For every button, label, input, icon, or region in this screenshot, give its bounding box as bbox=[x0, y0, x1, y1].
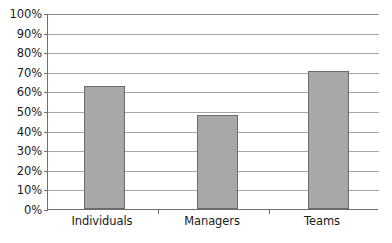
gridline-100 bbox=[48, 14, 379, 15]
y-tickmark bbox=[44, 171, 48, 172]
bar-teams bbox=[308, 71, 349, 209]
plot-area bbox=[47, 14, 378, 210]
y-tickmark bbox=[44, 210, 48, 211]
gridline-80 bbox=[48, 53, 379, 54]
y-axis-tick-label: 100% bbox=[0, 8, 42, 20]
y-axis-tick-label: 0% bbox=[0, 204, 42, 216]
y-tickmark bbox=[44, 132, 48, 133]
y-tickmark bbox=[44, 92, 48, 93]
y-axis-tick-label: 20% bbox=[0, 165, 42, 177]
y-tickmark bbox=[44, 34, 48, 35]
y-axis-tick-label: 30% bbox=[0, 145, 42, 157]
y-axis-tick-label: 80% bbox=[0, 47, 42, 59]
x-axis-label-managers: Managers bbox=[157, 213, 267, 229]
x-axis-label-individuals: Individuals bbox=[47, 213, 157, 229]
bar-managers bbox=[197, 115, 238, 209]
y-axis-tick-label: 60% bbox=[0, 86, 42, 98]
bar-individuals bbox=[84, 86, 125, 209]
y-axis-tick-label: 90% bbox=[0, 28, 42, 40]
y-tickmark bbox=[44, 14, 48, 15]
bar-chart: 100% 90% 80% 70% 60% 50% 40% 30% 20% 10%… bbox=[0, 0, 392, 243]
y-tickmark bbox=[44, 73, 48, 74]
y-axis-tick-label: 40% bbox=[0, 126, 42, 138]
y-tickmark bbox=[44, 190, 48, 191]
y-tickmark bbox=[44, 112, 48, 113]
y-axis: 100% 90% 80% 70% 60% 50% 40% 30% 20% 10%… bbox=[0, 0, 46, 243]
x-axis: Individuals Managers Teams bbox=[47, 213, 378, 237]
y-tickmark bbox=[44, 53, 48, 54]
y-tickmark bbox=[44, 151, 48, 152]
y-axis-tick-label: 50% bbox=[0, 106, 42, 118]
x-axis-label-teams: Teams bbox=[267, 213, 377, 229]
gridline-90 bbox=[48, 34, 379, 35]
y-axis-tick-label: 10% bbox=[0, 184, 42, 196]
y-axis-tick-label: 70% bbox=[0, 67, 42, 79]
